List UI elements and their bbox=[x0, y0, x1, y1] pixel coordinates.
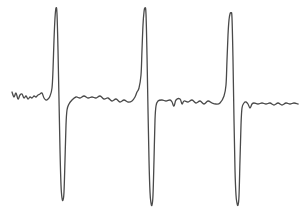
signal-chart bbox=[0, 0, 305, 215]
chart-background bbox=[0, 0, 305, 215]
